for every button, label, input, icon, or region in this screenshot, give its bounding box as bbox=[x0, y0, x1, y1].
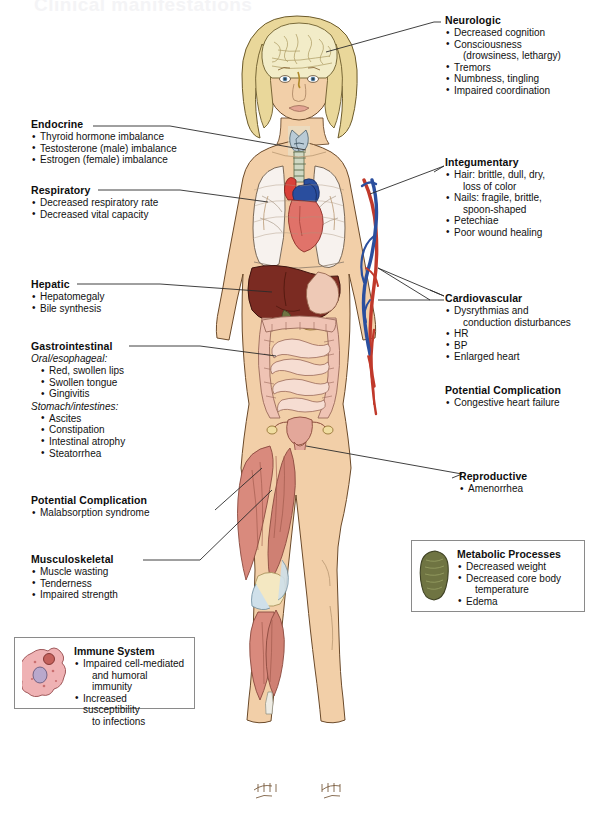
callout-cardiovascular: Cardiovascular Dysrythmias and conductio… bbox=[445, 292, 595, 363]
boxed-callout-immune-system: Immune System Impaired cell-mediated and… bbox=[14, 637, 195, 709]
mitochondrion-icon bbox=[419, 548, 451, 606]
callout-list: Muscle wasting Tenderness Impaired stren… bbox=[31, 566, 201, 601]
list-item: Edema bbox=[457, 596, 561, 608]
list-item: Hepatomegaly bbox=[31, 291, 201, 303]
feet-detail bbox=[254, 783, 340, 798]
list-item: Impaired cell-mediated bbox=[74, 658, 186, 670]
list-item-continuation: to infections bbox=[74, 716, 186, 728]
list-item-continuation: conduction disturbances bbox=[445, 317, 595, 329]
boxed-callout-list: Decreased weight Decreased core body tem… bbox=[457, 561, 561, 607]
list-item-continuation: (drowsiness, lethargy) bbox=[445, 50, 595, 62]
list-item-continuation: temperature bbox=[457, 584, 561, 596]
callout-list: Decreased cognition Consciousness (drows… bbox=[445, 27, 595, 97]
callout-heading: Cardiovascular bbox=[445, 292, 595, 304]
callout-heading: Respiratory bbox=[31, 184, 211, 196]
list-item: Hair: brittle, dull, dry, bbox=[445, 169, 595, 181]
boxed-callout-metabolic-processes: Metabolic Processes Decreased weight Dec… bbox=[411, 540, 585, 612]
brain-organ bbox=[262, 23, 337, 88]
list-item: Red, swollen lips bbox=[31, 365, 201, 377]
callout-list: Hair: brittle, dull, dry, loss of color … bbox=[445, 169, 595, 239]
list-item: Bile synthesis bbox=[31, 303, 201, 315]
macrophage-cell-icon bbox=[22, 645, 68, 701]
boxed-callout-list: Impaired cell-mediated and humoral immun… bbox=[74, 658, 186, 728]
list-item: HR bbox=[445, 328, 595, 340]
callout-heading: Potential Complication bbox=[445, 384, 595, 396]
callout-list: Hepatomegaly Bile synthesis bbox=[31, 291, 201, 314]
diagram-canvas: Clinical manifestations bbox=[0, 0, 597, 825]
callout-subheading-oral: Oral/esophageal: bbox=[31, 353, 201, 365]
callout-hepatic: Hepatic Hepatomegaly Bile synthesis bbox=[31, 278, 201, 314]
list-item: Impaired strength bbox=[31, 589, 201, 601]
callout-heading: Reproductive bbox=[459, 470, 594, 482]
list-item: Decreased core body bbox=[457, 573, 561, 585]
leg-musculature bbox=[238, 446, 296, 714]
list-item: Congestive heart failure bbox=[445, 397, 595, 409]
boxed-callout-heading: Metabolic Processes bbox=[457, 548, 561, 560]
callout-heading: Potential Complication bbox=[31, 494, 211, 506]
list-item: Thyroid hormone imbalance bbox=[31, 131, 211, 143]
boxed-callout-text: Immune System Impaired cell-mediated and… bbox=[74, 645, 186, 728]
callout-respiratory: Respiratory Decreased respiratory rate D… bbox=[31, 184, 211, 220]
list-item: Decreased cognition bbox=[445, 27, 595, 39]
callout-endocrine: Endocrine Thyroid hormone imbalance Test… bbox=[31, 118, 211, 166]
list-item: Steatorrhea bbox=[31, 448, 201, 460]
list-item: Decreased respiratory rate bbox=[31, 197, 211, 209]
callout-subheading-stomach: Stomach/intestines: bbox=[31, 401, 201, 413]
callout-list: Thyroid hormone imbalance Testosterone (… bbox=[31, 131, 211, 166]
callout-list-oral: Red, swollen lips Swollen tongue Gingivi… bbox=[31, 365, 201, 400]
list-item: Swollen tongue bbox=[31, 377, 201, 389]
list-item: Poor wound healing bbox=[445, 227, 595, 239]
callout-neurologic: Neurologic Decreased cognition Conscious… bbox=[445, 14, 595, 97]
callout-musculoskeletal: Musculoskeletal Muscle wasting Tendernes… bbox=[31, 553, 201, 601]
callout-cardiovascular-complication: Potential Complication Congestive heart … bbox=[445, 384, 595, 409]
list-item: Petechiae bbox=[445, 215, 595, 227]
list-item: Constipation bbox=[31, 424, 201, 436]
list-item: Estrogen (female) imbalance bbox=[31, 154, 211, 166]
list-item: Amenorrhea bbox=[459, 483, 594, 495]
list-item: Tremors bbox=[445, 62, 595, 74]
list-item: Muscle wasting bbox=[31, 566, 201, 578]
list-item-continuation: loss of color bbox=[445, 181, 595, 193]
list-item: Enlarged heart bbox=[445, 351, 595, 363]
list-item-continuation: spoon-shaped bbox=[445, 204, 595, 216]
boxed-callout-text: Metabolic Processes Decreased weight Dec… bbox=[457, 548, 561, 607]
list-item: Ascites bbox=[31, 413, 201, 425]
list-item: Gingivitis bbox=[31, 388, 201, 400]
callout-list: Decreased respiratory rate Decreased vit… bbox=[31, 197, 211, 220]
list-item: Consciousness bbox=[445, 39, 595, 51]
list-item-continuation: and humoral immunity bbox=[74, 670, 186, 693]
list-item: Decreased vital capacity bbox=[31, 209, 211, 221]
list-item: Decreased weight bbox=[457, 561, 561, 573]
callout-heading: Hepatic bbox=[31, 278, 201, 290]
list-item: Testosterone (male) imbalance bbox=[31, 143, 211, 155]
callout-integumentary: Integumentary Hair: brittle, dull, dry, … bbox=[445, 156, 595, 239]
callout-list: Dysrythmias and conduction disturbances … bbox=[445, 305, 595, 363]
list-item: Nails: fragile, brittle, bbox=[445, 192, 595, 204]
callout-heading: Endocrine bbox=[31, 118, 211, 130]
callout-gastrointestinal: Gastrointestinal Oral/esophageal: Red, s… bbox=[31, 340, 201, 459]
callout-list: Amenorrhea bbox=[459, 483, 594, 495]
list-item: Intestinal atrophy bbox=[31, 436, 201, 448]
list-item: Numbness, tingling bbox=[445, 73, 595, 85]
list-item: Tenderness bbox=[31, 578, 201, 590]
list-item: Impaired coordination bbox=[445, 85, 595, 97]
list-item: Malabsorption syndrome bbox=[31, 507, 211, 519]
callout-heading: Neurologic bbox=[445, 14, 595, 26]
list-item: BP bbox=[445, 340, 595, 352]
callout-heading: Musculoskeletal bbox=[31, 553, 201, 565]
callout-heading: Integumentary bbox=[445, 156, 595, 168]
callout-heading: Gastrointestinal bbox=[31, 340, 201, 352]
callout-list-stomach: Ascites Constipation Intestinal atrophy … bbox=[31, 413, 201, 459]
callout-list: Congestive heart failure bbox=[445, 397, 595, 409]
list-item: Increased susceptibility bbox=[74, 693, 186, 716]
callout-list: Malabsorption syndrome bbox=[31, 507, 211, 519]
callout-reproductive: Reproductive Amenorrhea bbox=[459, 470, 594, 495]
list-item: Dysrythmias and bbox=[445, 305, 595, 317]
callout-gi-complication: Potential Complication Malabsorption syn… bbox=[31, 494, 211, 519]
boxed-callout-heading: Immune System bbox=[74, 645, 186, 657]
